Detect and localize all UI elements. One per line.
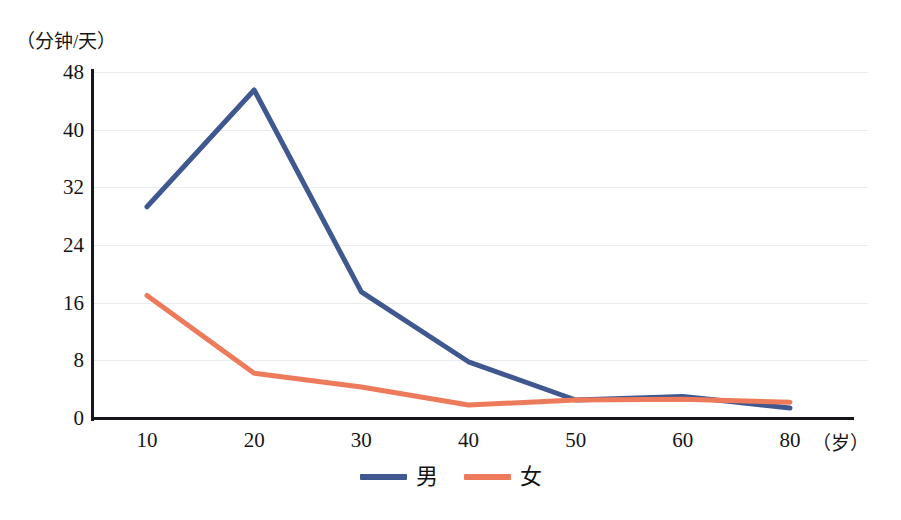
legend-label: 女 [520,466,542,488]
legend-swatch-line-icon [360,474,407,480]
line-chart: （分钟/天） 081624324048 10203040506080 （岁） 男… [0,0,901,520]
chart-legend: 男女 [0,466,901,488]
legend-label: 男 [416,466,438,488]
series-line-女 [147,295,790,405]
legend-item[interactable]: 女 [464,466,542,488]
legend-item[interactable]: 男 [360,466,438,488]
series-line-男 [147,90,790,408]
series-layer [0,0,901,520]
legend-swatch-line-icon [464,474,511,480]
